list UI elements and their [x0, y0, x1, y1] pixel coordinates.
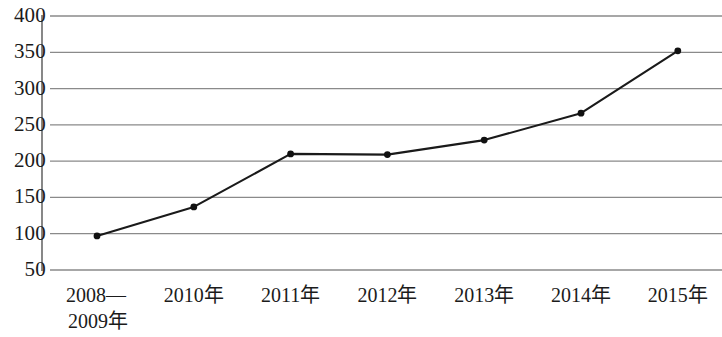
y-tick-label: 100	[2, 223, 46, 244]
y-tick-label: 250	[2, 114, 46, 135]
y-tick-label: 200	[2, 150, 46, 171]
data-point-marker	[481, 137, 488, 144]
data-point-marker	[94, 233, 101, 240]
x-tick-label: 2013年	[454, 282, 514, 308]
data-point-marker	[287, 151, 294, 158]
x-tick-label: 2012年	[357, 282, 417, 308]
y-axis-tick-labels: 40035030025020015010050	[0, 0, 46, 290]
gridlines-group	[50, 16, 722, 270]
y-tick-label: 350	[2, 41, 46, 62]
x-tick-label-line: 2010年	[164, 282, 224, 308]
data-point-marker	[384, 151, 391, 158]
x-tick-label-line: 2009年	[66, 308, 128, 334]
x-tick-label-line: 2015年	[648, 282, 708, 308]
x-tick-label-line: 2011年	[261, 282, 320, 308]
x-axis-tick-labels: 2008—2009年2010年2011年2012年2013年2014年2015年	[0, 282, 722, 337]
y-tick-label: 300	[2, 78, 46, 99]
series-line	[97, 51, 678, 236]
y-tick-label: 150	[2, 186, 46, 207]
x-tick-label: 2014年	[551, 282, 611, 308]
x-tick-label-line: 2014年	[551, 282, 611, 308]
x-tick-label: 2011年	[261, 282, 320, 308]
x-tick-label: 2008—2009年	[66, 282, 128, 334]
x-tick-label-line: 2013年	[454, 282, 514, 308]
x-tick-label: 2010年	[164, 282, 224, 308]
x-tick-label-line: 2008—	[66, 282, 128, 308]
data-point-marker	[190, 204, 197, 211]
line-chart: 40035030025020015010050 2008—2009年2010年2…	[0, 0, 722, 337]
data-point-marker	[578, 110, 585, 117]
x-tick-label: 2015年	[648, 282, 708, 308]
y-tick-label: 400	[2, 5, 46, 26]
data-point-marker	[674, 47, 681, 54]
x-tick-label-line: 2012年	[357, 282, 417, 308]
y-tick-label: 50	[2, 259, 46, 280]
data-series-group	[97, 51, 678, 236]
